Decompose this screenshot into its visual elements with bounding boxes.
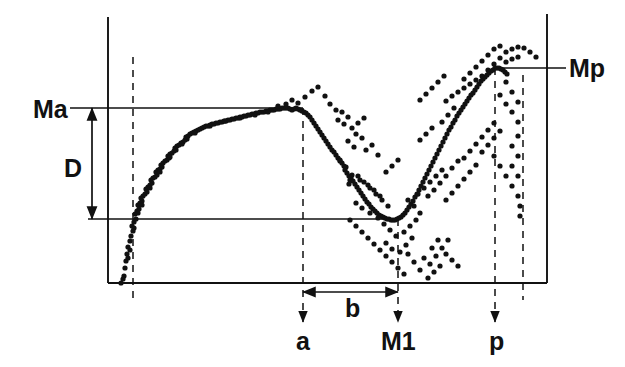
scatter-figure: Ma D Mp b a M1 p xyxy=(0,0,625,367)
label-a: a xyxy=(296,329,310,354)
label-m1: M1 xyxy=(381,329,416,354)
label-ma: Ma xyxy=(33,97,68,122)
annotation-arrows-layer xyxy=(92,108,398,292)
label-b: b xyxy=(345,296,360,321)
series-secondary-scattered-points xyxy=(118,43,538,285)
figure-canvas xyxy=(0,0,625,367)
label-d: D xyxy=(64,156,82,181)
label-p: p xyxy=(489,329,504,354)
data-points-layer xyxy=(118,43,538,285)
label-mp: Mp xyxy=(569,56,605,81)
